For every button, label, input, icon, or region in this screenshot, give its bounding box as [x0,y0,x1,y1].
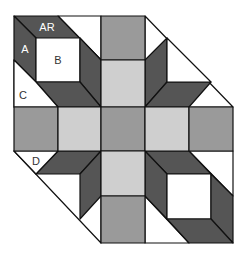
light-square-top [101,60,145,107]
white-square-br [167,174,211,219]
light-square-right [145,107,189,151]
label-a: A [21,43,29,55]
white-triangle-inner-top-right [167,38,211,82]
label-ar: AR [39,21,54,33]
light-square-bottom [101,151,145,196]
light-square-left [58,107,101,151]
label-d: D [32,155,40,167]
medium-square-right [189,107,233,151]
quilt-diagram: ARABCD [0,0,245,256]
medium-square-top [101,16,145,60]
label-b: B [54,54,61,66]
medium-square-center [101,107,145,151]
medium-square-bottom [101,196,145,243]
label-c: C [19,89,27,101]
medium-square-left [14,107,58,151]
